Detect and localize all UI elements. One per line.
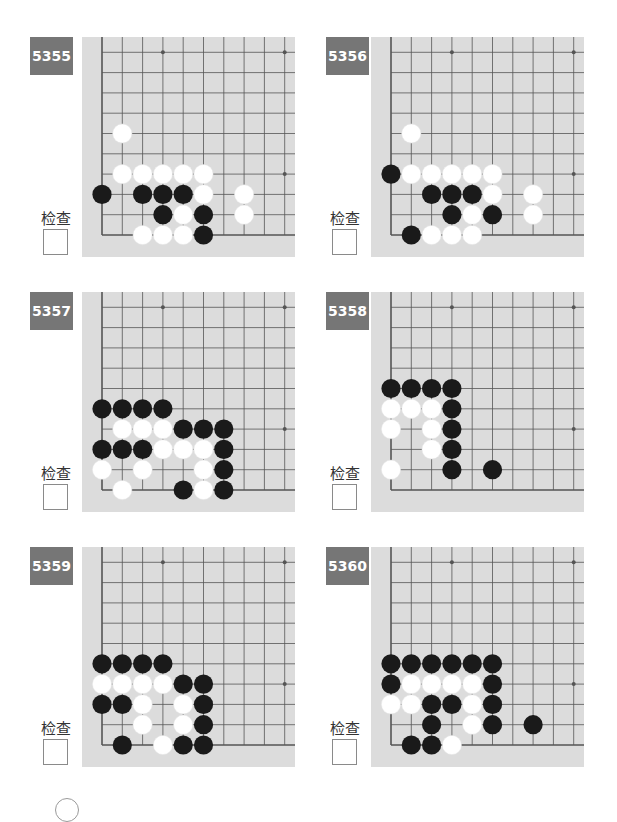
problem-number-badge: 5357 (30, 292, 73, 330)
black-stone (113, 440, 132, 459)
white-stone (422, 440, 441, 459)
white-stone (381, 460, 400, 479)
white-stone (381, 695, 400, 714)
black-stone (442, 379, 461, 398)
white-stone (422, 420, 441, 439)
white-stone (153, 420, 172, 439)
black-stone (442, 440, 461, 459)
black-stone (174, 675, 193, 694)
page-corner-circle-icon (55, 798, 79, 822)
black-stone (442, 420, 461, 439)
black-stone (194, 715, 213, 734)
black-stone (133, 399, 152, 418)
white-stone (463, 695, 482, 714)
white-stone (194, 460, 213, 479)
black-stone (442, 399, 461, 418)
black-stone (133, 185, 152, 204)
black-stone (483, 675, 502, 694)
check-label: 检查 (330, 462, 360, 483)
white-stone (174, 440, 193, 459)
black-stone (442, 654, 461, 673)
black-stone (174, 420, 193, 439)
black-stone (381, 379, 400, 398)
black-stone (463, 185, 482, 204)
white-stone (174, 695, 193, 714)
white-stone (442, 225, 461, 244)
white-stone (402, 399, 421, 418)
white-stone (483, 185, 502, 204)
white-stone (133, 165, 152, 184)
white-stone (235, 205, 254, 224)
white-stone (463, 165, 482, 184)
problem-5356: 5356 检查 (319, 37, 617, 262)
white-stone (153, 440, 172, 459)
white-stone (402, 695, 421, 714)
white-stone (92, 675, 111, 694)
black-stone (92, 440, 111, 459)
check-label: 检查 (41, 207, 71, 228)
white-stone (113, 124, 132, 143)
white-stone (153, 225, 172, 244)
black-stone (442, 695, 461, 714)
black-stone (174, 735, 193, 754)
check-box[interactable] (43, 484, 68, 510)
go-board (82, 292, 295, 512)
check-box[interactable] (332, 484, 357, 510)
white-stone (194, 440, 213, 459)
black-stone (113, 654, 132, 673)
check-box[interactable] (43, 739, 68, 765)
white-stone (422, 675, 441, 694)
black-stone (133, 440, 152, 459)
white-stone (113, 165, 132, 184)
white-stone (133, 715, 152, 734)
white-stone (463, 675, 482, 694)
white-stone (174, 225, 193, 244)
white-stone (153, 675, 172, 694)
white-stone (402, 124, 421, 143)
white-stone (153, 165, 172, 184)
problem-5358: 5358 检查 (319, 292, 617, 517)
black-stone (194, 420, 213, 439)
problem-5357: 5357 检查 (30, 292, 330, 517)
check-box[interactable] (43, 229, 68, 255)
check-label: 检查 (330, 717, 360, 738)
black-stone (483, 695, 502, 714)
black-stone (174, 185, 193, 204)
check-box[interactable] (332, 739, 357, 765)
white-stone (442, 675, 461, 694)
white-stone (483, 165, 502, 184)
check-box[interactable] (332, 229, 357, 255)
go-board (82, 37, 295, 257)
white-stone (113, 420, 132, 439)
black-stone (153, 185, 172, 204)
white-stone (194, 185, 213, 204)
black-stone (194, 225, 213, 244)
black-stone (483, 205, 502, 224)
black-stone (422, 695, 441, 714)
white-stone (133, 675, 152, 694)
white-stone (524, 185, 543, 204)
black-stone (133, 654, 152, 673)
black-stone (402, 225, 421, 244)
white-stone (92, 460, 111, 479)
problem-number-badge: 5356 (326, 37, 369, 75)
go-board (371, 547, 584, 767)
black-stone (442, 185, 461, 204)
black-stone (214, 480, 233, 499)
black-stone (194, 695, 213, 714)
black-stone (381, 675, 400, 694)
go-board (371, 292, 584, 512)
white-stone (524, 205, 543, 224)
check-label: 检查 (41, 462, 71, 483)
black-stone (402, 735, 421, 754)
white-stone (113, 675, 132, 694)
white-stone (402, 165, 421, 184)
black-stone (402, 654, 421, 673)
black-stone (442, 460, 461, 479)
black-stone (214, 440, 233, 459)
white-stone (442, 735, 461, 754)
black-stone (422, 654, 441, 673)
problem-number-badge: 5360 (326, 547, 369, 585)
white-stone (174, 715, 193, 734)
black-stone (153, 654, 172, 673)
